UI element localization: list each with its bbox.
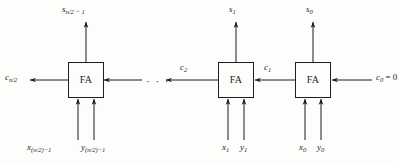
x-zero-label: x0: [299, 143, 306, 152]
carry-one-sub: 1: [268, 66, 271, 73]
diagram-canvas: [0, 0, 399, 165]
y-one-sub: 1: [244, 146, 247, 153]
sum-high-label: sn/2 − 1: [62, 5, 85, 14]
sum-high-sub: n/2 − 1: [66, 8, 85, 15]
x-high-label: x(n/2)−1: [27, 143, 51, 152]
x-zero-sub: 0: [303, 146, 306, 153]
x-one-label: x1: [222, 143, 229, 152]
sum-one-label: s1: [229, 5, 236, 14]
y-zero-sub: 0: [321, 146, 324, 153]
carry-in-label: c0 = 0: [376, 73, 397, 82]
sum-zero-label: s0: [306, 5, 313, 14]
fa-block-high-label: FA: [68, 74, 104, 85]
y-high-label: y(n/2)−1: [81, 143, 105, 152]
fa-block-zero-label: FA: [295, 74, 331, 85]
y-zero-label: y0: [317, 143, 324, 152]
sum-zero-sub: 0: [310, 8, 313, 15]
carry-two-sub: 2: [184, 66, 187, 73]
carry-out-sub: n/2: [9, 76, 17, 83]
y-one-label: y1: [240, 143, 247, 152]
sum-one-base: s: [229, 4, 233, 14]
y-high-sub: (n/2)−1: [85, 146, 105, 153]
x-one-sub: 1: [226, 146, 229, 153]
carry-two-label: c2: [180, 63, 187, 72]
fa-block-one-label: FA: [218, 74, 254, 85]
ripple-carry-adder-figure: FA FA FA · · · sn/2 − 1 s1 s0 cn/2 c2 c1…: [0, 0, 399, 165]
sum-zero-base: s: [306, 4, 310, 14]
ellipsis: · · ·: [146, 75, 170, 87]
carry-out-label: cn/2: [5, 73, 17, 82]
carry-in-suffix: = 0: [383, 72, 397, 82]
carry-in-sub: 0: [380, 76, 383, 83]
sum-high-base: s: [62, 4, 66, 14]
x-high-sub: (n/2)−1: [31, 146, 51, 153]
sum-one-sub: 1: [233, 8, 236, 15]
carry-one-label: c1: [264, 63, 271, 72]
